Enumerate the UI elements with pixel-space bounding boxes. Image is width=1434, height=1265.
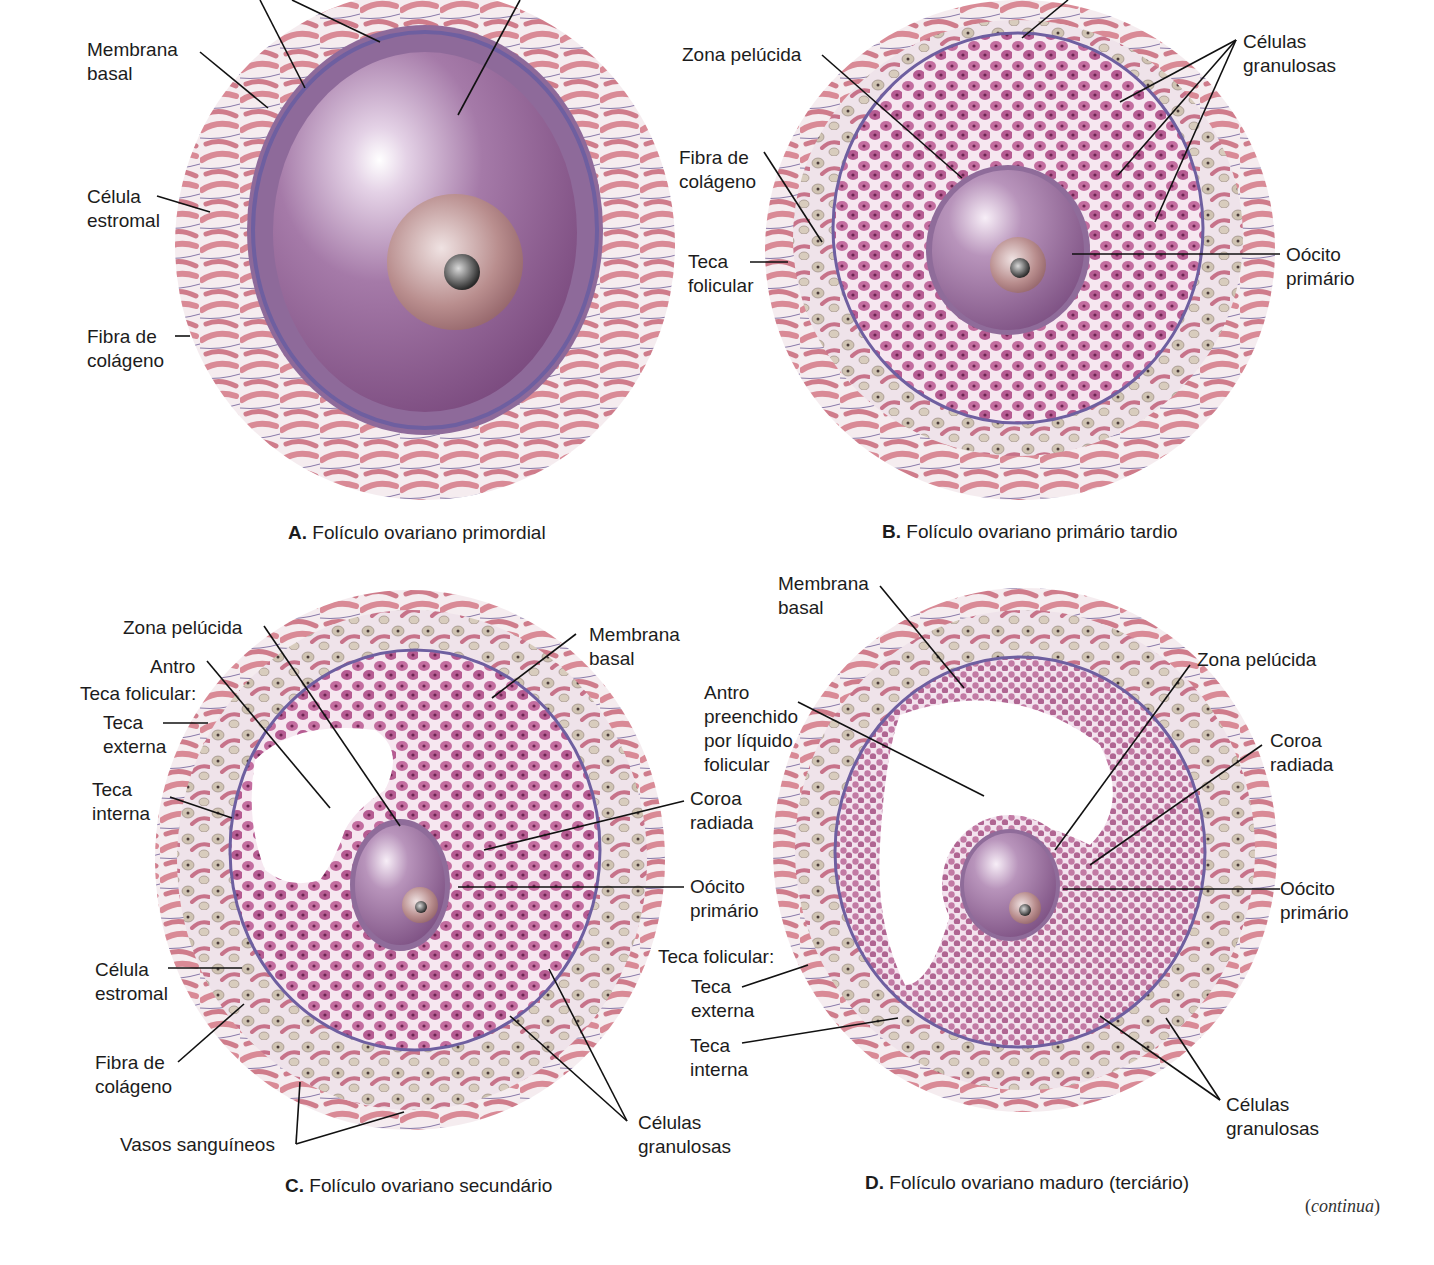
caption-panel-b: B. Folículo ovariano primário tardio <box>882 520 1178 544</box>
label-teca-folicular-c: Teca folicular: <box>80 682 196 706</box>
label-oocito-primario-c: Oócito primário <box>690 875 759 923</box>
caption-panel-c: C. Folículo ovariano secundário <box>285 1174 552 1198</box>
caption-letter-d: D. <box>865 1172 884 1193</box>
label-zona-pelucida-d: Zona pelúcida <box>1197 648 1316 672</box>
label-antro-d: Antro preenchido por líquido folicular <box>704 681 798 777</box>
label-teca-folicular-d: Teca folicular: <box>658 945 774 969</box>
label-teca-folicular-b: Teca folicular <box>688 250 753 298</box>
continuation-text: continua <box>1311 1196 1374 1216</box>
label-celula-estromal-a: Célula estromal <box>87 185 160 233</box>
label-antro-c: Antro <box>150 655 195 679</box>
caption-letter-c: C. <box>285 1175 304 1196</box>
caption-panel-a: A. Folículo ovariano primordial <box>288 521 546 545</box>
panel-b-illustration <box>765 0 1275 500</box>
label-teca-interna-c: Teca interna <box>92 778 150 826</box>
continuation-note: (continua) <box>1305 1196 1380 1217</box>
caption-letter-b: B. <box>882 521 901 542</box>
label-fibra-colageno-b: Fibra de colágeno <box>679 146 756 194</box>
label-zona-pelucida-b: Zona pelúcida <box>682 43 801 67</box>
label-teca-externa-d: Teca externa <box>691 975 754 1023</box>
label-membrana-basal-a: Membrana basal <box>87 38 178 86</box>
caption-text-d: Folículo ovariano maduro (terciário) <box>884 1172 1189 1193</box>
label-vasos-sanguineos-c: Vasos sanguíneos <box>120 1133 275 1157</box>
label-celulas-granulosas-d: Células granulosas <box>1226 1093 1319 1141</box>
label-oocito-primario-d: Oócito primário <box>1280 877 1349 925</box>
label-coroa-radiada-c: Coroa radiada <box>690 787 753 835</box>
caption-letter-a: A. <box>288 522 307 543</box>
label-fibra-colageno-c: Fibra de colágeno <box>95 1051 172 1099</box>
caption-panel-d: D. Folículo ovariano maduro (terciário) <box>865 1171 1189 1195</box>
label-teca-interna-d: Teca interna <box>690 1034 748 1082</box>
label-coroa-radiada-d: Coroa radiada <box>1270 729 1333 777</box>
label-celulas-granulosas-c: Células granulosas <box>638 1111 731 1159</box>
panel-a-illustration <box>175 0 675 500</box>
label-membrana-basal-c: Membrana basal <box>589 623 680 671</box>
label-fibra-colageno-a: Fibra de colágeno <box>87 325 164 373</box>
label-membrana-basal-d: Membrana basal <box>778 572 869 620</box>
label-zona-pelucida-c: Zona pelúcida <box>123 616 242 640</box>
label-teca-externa-c: Teca externa <box>103 711 166 759</box>
label-celulas-granulosas-b: Células granulosas <box>1243 30 1336 78</box>
panel-c-illustration <box>155 590 665 1130</box>
label-celula-estromal-c: Célula estromal <box>95 958 168 1006</box>
caption-text-a: Folículo ovariano primordial <box>307 522 546 543</box>
label-oocito-primario-b: Oócito primário <box>1286 243 1355 291</box>
caption-text-b: Folículo ovariano primário tardio <box>901 521 1178 542</box>
caption-text-c: Folículo ovariano secundário <box>304 1175 552 1196</box>
